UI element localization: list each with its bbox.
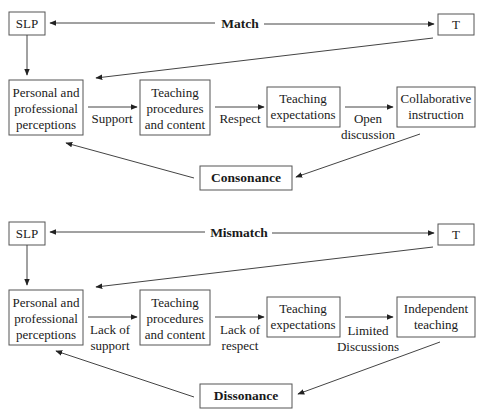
t-to-perceptions-arrow	[96, 38, 433, 78]
procedures-line-2: procedures	[146, 311, 203, 326]
expectations-line-1: Teaching	[279, 301, 327, 316]
edge-label-discussion-1: Limited	[347, 323, 389, 338]
edge-label-respect-1: Lack of	[220, 322, 261, 337]
t-label: T	[452, 17, 460, 32]
perceptions-line-1: Personal and	[13, 85, 80, 100]
edge-label-discussion-1: Open	[354, 111, 383, 126]
independent-line-2: teaching	[414, 317, 459, 332]
collaborative-line-1: Collaborative	[401, 91, 472, 106]
match-diagram: SLP T Match Personal and professional pe…	[9, 12, 475, 190]
slp-label: SLP	[16, 16, 38, 31]
expectations-line-1: Teaching	[279, 91, 327, 106]
perceptions-line-2: professional	[14, 311, 78, 326]
mismatch-diagram: SLP T Mismatch Personal and professional…	[9, 222, 475, 408]
outcome-label: Dissonance	[214, 388, 279, 403]
procedures-line-3: and content	[145, 117, 206, 132]
expectations-line-2: expectations	[271, 107, 336, 122]
edge-label-respect: Respect	[219, 111, 261, 126]
procedures-line-1: Teaching	[151, 295, 199, 310]
procedures-line-2: procedures	[146, 101, 203, 116]
outcome-feedback-arrow	[56, 351, 194, 397]
procedures-line-1: Teaching	[151, 85, 199, 100]
edge-label-support-1: Lack of	[90, 322, 131, 337]
perceptions-line-3: perceptions	[16, 327, 76, 342]
outcome-label: Consonance	[211, 170, 281, 185]
procedures-line-3: and content	[145, 327, 206, 342]
independent-line-1: Independent	[404, 301, 469, 316]
t-label: T	[452, 227, 460, 242]
t-to-perceptions-arrow	[96, 247, 433, 287]
edge-label-support-2: support	[91, 338, 130, 353]
relation-label: Mismatch	[210, 225, 268, 240]
expectations-line-2: expectations	[271, 317, 336, 332]
perceptions-line-3: perceptions	[16, 117, 76, 132]
slp-label: SLP	[16, 226, 38, 241]
outcome-feedback-arrow	[66, 143, 194, 178]
collaborative-line-2: instruction	[408, 107, 464, 122]
edge-label-discussion-2: Discussions	[337, 339, 399, 354]
relation-label: Match	[221, 16, 259, 31]
perceptions-line-1: Personal and	[13, 295, 80, 310]
perceptions-line-2: professional	[14, 101, 78, 116]
edge-label-discussion-2: discussion	[341, 127, 396, 142]
edge-label-support: Support	[91, 111, 133, 126]
edge-label-respect-2: respect	[222, 338, 259, 353]
diagram-canvas: SLP T Match Personal and professional pe…	[0, 0, 485, 419]
